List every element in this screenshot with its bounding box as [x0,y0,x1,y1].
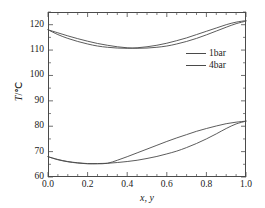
chart-series-curve [48,21,246,49]
legend-label: 4bar [209,61,226,71]
chart-series-curve [48,21,246,48]
chart-legend: 1bar4bar [186,48,244,71]
legend-label: 1bar [209,49,226,59]
x-tick-label: 0.8 [191,180,221,190]
chart-series-curve [48,121,246,164]
x-tick-label: 0.0 [33,180,63,190]
x-tick-label: 0.4 [112,180,142,190]
x-axis-title: x, y [48,192,246,203]
chart-series-curve [48,121,246,163]
chart-curve-layer [0,0,265,208]
legend-item: 4bar [186,60,244,71]
x-tick-label: 0.6 [152,180,182,190]
x-tick-label: 1.0 [231,180,261,190]
legend-line-swatch [186,65,206,66]
legend-item: 1bar [186,48,244,59]
vle-phase-diagram-figure: 60708090100110120 T/℃ 1bar4bar 0.00.20.4… [0,0,265,208]
x-tick-label: 0.2 [73,180,103,190]
legend-line-swatch [186,53,206,54]
